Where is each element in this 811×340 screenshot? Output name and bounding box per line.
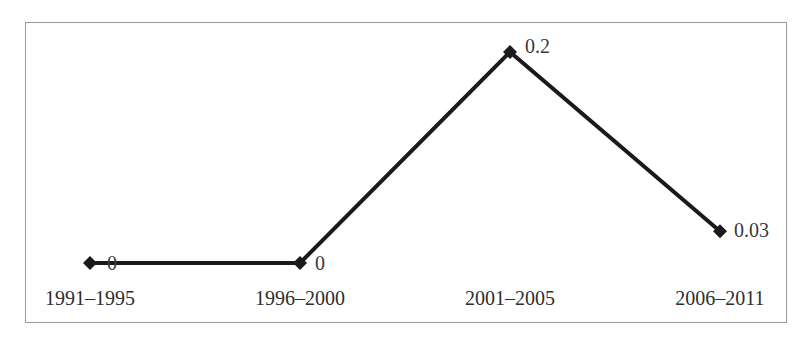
data-label: 0 <box>315 252 325 274</box>
data-label: 0.03 <box>734 219 769 241</box>
data-labels-group: 0 0 0.2 0.03 <box>107 35 769 274</box>
x-tick-label: 1991–1995 <box>45 287 135 309</box>
data-label: 0.2 <box>525 35 550 57</box>
x-tick-label: 1996–2000 <box>255 287 345 309</box>
data-label: 0 <box>107 252 117 274</box>
x-axis-labels: 1991–1995 1996–2000 2001–2005 2006–2011 <box>45 287 765 309</box>
x-tick-label: 2001–2005 <box>465 287 555 309</box>
series-line <box>90 52 720 263</box>
x-tick-label: 2006–2011 <box>675 287 764 309</box>
line-chart: 0 0 0.2 0.03 1991–1995 1996–2000 2001–20… <box>0 0 811 340</box>
diamond-marker-icon <box>83 256 97 270</box>
